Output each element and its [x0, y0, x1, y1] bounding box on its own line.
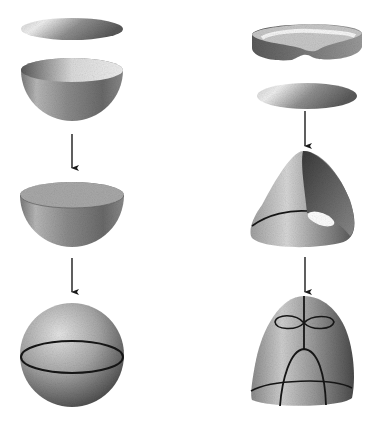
cross-cap-closed-shape: [251, 296, 354, 406]
hemisphere-with-disc-shape: [20, 182, 124, 247]
sphere-shape: [20, 303, 124, 407]
disc-shape: [257, 83, 357, 109]
hemisphere-shape: [21, 58, 123, 121]
cross-cap-shape: [250, 151, 354, 247]
topology-figure: [0, 0, 377, 421]
projective-plane-construction: [250, 24, 362, 406]
disc-shape: [21, 18, 123, 40]
sphere-construction: [20, 18, 124, 407]
mobius-band-shape: [252, 24, 362, 60]
